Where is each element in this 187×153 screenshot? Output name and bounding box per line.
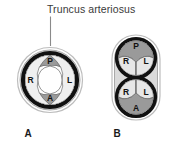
panel-b-lower-label-l: L xyxy=(143,87,148,97)
panel-b-upper-label-r: R xyxy=(123,56,129,66)
truncus-arteriosus-figure: Truncus arteriosus xyxy=(0,0,187,153)
panel-b-upper-label-p: P xyxy=(133,41,139,51)
panel-a-label-l: L xyxy=(67,75,72,85)
panel-a-label-a: A xyxy=(47,93,53,103)
panel-a: P R L A A xyxy=(18,48,83,140)
panel-b-letter: B xyxy=(113,128,120,139)
panel-a-label-p: P xyxy=(47,56,53,66)
panel-b-lower-label-r: R xyxy=(123,87,129,97)
figure-title: Truncus arteriosus xyxy=(47,3,135,15)
panel-a-label-r: R xyxy=(27,75,33,85)
panel-b: P R L R L A B xyxy=(112,35,160,139)
panel-b-lower-label-a: A xyxy=(133,103,139,113)
panel-a-letter: A xyxy=(24,128,31,139)
panel-b-upper-label-l: L xyxy=(143,56,148,66)
panel-a-central-lumen xyxy=(38,66,62,94)
